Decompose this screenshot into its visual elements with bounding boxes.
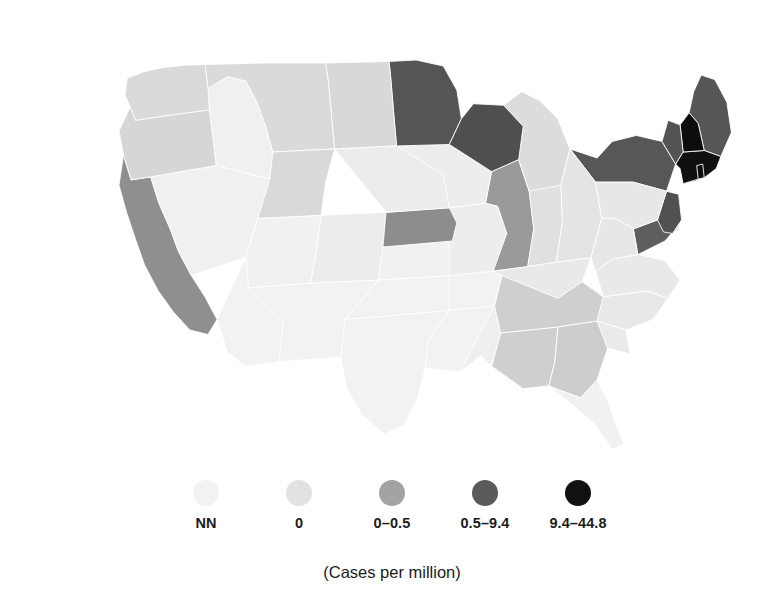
- state-mn[interactable]: Minnesota — 0.5–9.4: [389, 60, 461, 146]
- legend-item-label: 0: [295, 515, 303, 531]
- legend: NN00–0.50.5–9.49.4–44.8: [0, 480, 784, 550]
- legend-row: NN00–0.50.5–9.49.4–44.8: [0, 480, 784, 531]
- legend-item-label: 0.5–9.4: [460, 515, 509, 531]
- legend-swatch-circle-icon: [379, 480, 405, 506]
- legend-swatch-circle-icon: [472, 480, 498, 506]
- state-ar[interactable]: Arkansas — NN: [449, 271, 502, 310]
- us-states-map[interactable]: Alabama — 0–0.5Arizona — NNArkansas — NN…: [30, 30, 754, 455]
- state-ri[interactable]: Rhode Island — 9.4–44.8: [697, 164, 705, 179]
- legend-item[interactable]: 0: [253, 480, 346, 531]
- us-map-container: Alabama — 0–0.5Arizona — NNArkansas — NN…: [30, 30, 754, 455]
- legend-item[interactable]: 0–0.5: [346, 480, 439, 531]
- state-co[interactable]: Colorado — 0: [311, 212, 386, 283]
- state-al[interactable]: Alabama — 0–0.5: [492, 327, 558, 389]
- legend-swatch-circle-icon: [565, 480, 591, 506]
- state-tx[interactable]: Texas — NN: [341, 310, 450, 434]
- legend-item[interactable]: 9.4–44.8: [532, 480, 625, 531]
- state-ut[interactable]: Utah — NN: [246, 215, 321, 287]
- choropleth-figure: Alabama — 0–0.5Arizona — NNArkansas — NN…: [0, 0, 784, 601]
- legend-caption: (Cases per million): [0, 563, 784, 582]
- legend-item-label: NN: [195, 515, 216, 531]
- legend-swatch-circle-icon: [286, 480, 312, 506]
- state-nd[interactable]: North Dakota — 0: [326, 62, 397, 149]
- state-wa[interactable]: Washington — 0: [125, 65, 209, 121]
- state-ne[interactable]: Nebraska — 0–0.5: [383, 208, 457, 247]
- legend-item[interactable]: NN: [160, 480, 253, 531]
- states-layer: Alabama — 0–0.5Arizona — NNArkansas — NN…: [119, 60, 731, 449]
- legend-swatch-circle-icon: [193, 480, 219, 506]
- legend-item-label: 9.4–44.8: [549, 515, 606, 531]
- legend-item-label: 0–0.5: [374, 515, 411, 531]
- legend-item[interactable]: 0.5–9.4: [439, 480, 532, 531]
